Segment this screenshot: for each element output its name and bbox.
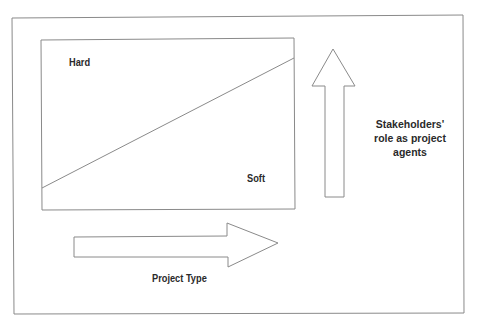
hard-soft-diagonal-line <box>42 58 294 188</box>
project-type-label: Project Type <box>152 272 207 284</box>
soft-label: Soft <box>247 172 265 184</box>
hard-label: Hard <box>69 56 90 68</box>
stakeholders-role-label: Stakeholders' role as project agents <box>365 117 455 159</box>
diagram-canvas <box>0 0 477 325</box>
right-arrow-icon <box>74 223 278 267</box>
up-arrow-icon <box>312 49 355 197</box>
stakeholders-label-line1: Stakeholders' <box>365 117 455 131</box>
stakeholders-label-line2: role as project <box>365 131 455 145</box>
stakeholders-label-line3: agents <box>365 145 455 159</box>
